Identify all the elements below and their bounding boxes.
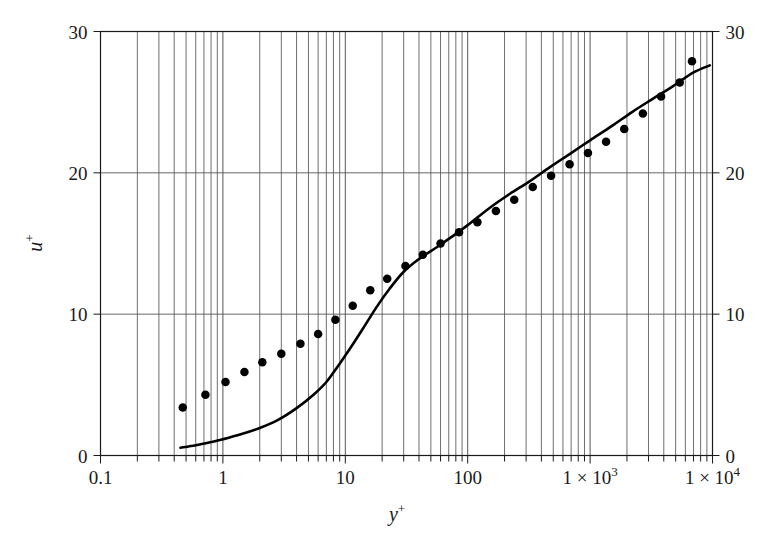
x-tick-label: 0.1 xyxy=(89,467,113,488)
x-tick-label: 1 × 104 xyxy=(685,464,741,488)
data-point xyxy=(277,349,286,358)
data-point xyxy=(473,218,482,227)
data-point xyxy=(240,368,249,377)
data-point xyxy=(201,390,210,399)
x-tick-label: 10 xyxy=(336,467,355,488)
data-point xyxy=(455,228,464,237)
data-point xyxy=(675,78,684,87)
data-point xyxy=(602,137,611,146)
data-point xyxy=(348,301,357,310)
data-point xyxy=(331,316,340,325)
data-point xyxy=(510,195,519,204)
chart-background xyxy=(0,0,767,545)
data-point xyxy=(620,125,629,134)
data-point xyxy=(383,275,392,284)
data-point xyxy=(547,171,556,180)
data-point xyxy=(179,403,188,412)
y-tick-label-left: 30 xyxy=(69,22,88,43)
data-point xyxy=(492,207,501,216)
data-point xyxy=(657,92,666,101)
data-point xyxy=(584,149,593,158)
x-tick-label: 1 xyxy=(218,467,228,488)
y-tick-label-left: 10 xyxy=(69,304,88,325)
data-point xyxy=(419,251,428,260)
data-point xyxy=(296,340,305,349)
y-tick-label-right: 0 xyxy=(726,446,736,467)
chart-figure: 0.11101001 × 1031 × 104 0102030 0102030 … xyxy=(0,0,767,545)
data-point xyxy=(436,239,445,248)
data-point xyxy=(529,183,538,192)
data-point xyxy=(565,160,574,169)
data-point xyxy=(258,358,267,367)
velocity-profile-chart: 0.11101001 × 1031 × 104 0102030 0102030 … xyxy=(0,0,767,545)
data-point xyxy=(401,262,410,271)
x-tick-label: 1 × 103 xyxy=(562,464,617,488)
y-tick-label-left: 20 xyxy=(69,163,88,184)
x-tick-label: 100 xyxy=(453,467,482,488)
y-tick-label-right: 30 xyxy=(726,22,745,43)
y-tick-label-right: 20 xyxy=(726,163,745,184)
data-point xyxy=(314,330,323,339)
data-point xyxy=(221,378,230,387)
y-tick-label-left: 0 xyxy=(78,446,88,467)
data-point xyxy=(639,109,648,118)
data-point xyxy=(688,57,697,66)
y-tick-label-right: 10 xyxy=(726,304,745,325)
data-point xyxy=(366,286,375,295)
